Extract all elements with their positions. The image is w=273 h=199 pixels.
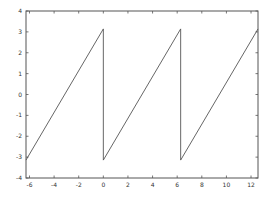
x-tick-label: 10 bbox=[223, 181, 231, 188]
x-tick-label: -4 bbox=[51, 181, 57, 188]
y-tick-label: 4 bbox=[18, 7, 22, 14]
x-tick-label: 0 bbox=[101, 181, 105, 188]
y-tick-label: 3 bbox=[18, 28, 22, 35]
y-tick-label: 0 bbox=[18, 91, 22, 98]
x-tick-label: -2 bbox=[76, 181, 82, 188]
y-tick-label: 2 bbox=[18, 49, 22, 56]
x-tick-label: 2 bbox=[126, 181, 130, 188]
series-line-sawtooth bbox=[26, 29, 258, 160]
y-tick-label: -4 bbox=[16, 174, 22, 181]
x-tick-label: 6 bbox=[175, 181, 179, 188]
x-tick-label: -6 bbox=[26, 181, 32, 188]
x-tick-label: 12 bbox=[247, 181, 255, 188]
y-tick-label: -3 bbox=[16, 153, 22, 160]
y-tick-label: -1 bbox=[16, 111, 22, 118]
x-tick-label: 4 bbox=[151, 181, 155, 188]
x-tick-label: 8 bbox=[200, 181, 204, 188]
sawtooth-chart: -6-4-2024681012-4-3-2-101234 bbox=[0, 0, 273, 199]
y-tick-label: -2 bbox=[16, 132, 22, 139]
y-tick-label: 1 bbox=[18, 70, 22, 77]
